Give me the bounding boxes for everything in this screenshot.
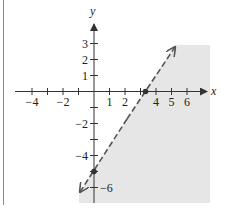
y-intercept-point (91, 169, 97, 175)
y-tick-label-3: 3 (82, 37, 88, 51)
y-tick-label-neg4: −4 (75, 149, 88, 163)
x-tick-label-neg2: −2 (57, 95, 70, 109)
y-tick-label-2: 2 (82, 53, 88, 67)
x-tick-label-5: 5 (169, 95, 175, 109)
y-axis-label: y (89, 4, 96, 18)
inequality-graph: −4 −2 1 2 4 5 6 3 2 1 −2 −4 −6 x y (0, 0, 227, 212)
x-tick-label-6: 6 (184, 95, 190, 109)
y-tick-label-1: 1 (82, 69, 88, 83)
x-tick-label-1: 1 (107, 95, 113, 109)
x-tick-label-neg4: −4 (26, 95, 39, 109)
x-axis-label: x (210, 84, 217, 98)
x-intercept-point (143, 89, 149, 95)
x-tick-label-4: 4 (153, 95, 159, 109)
y-tick-label-neg2: −2 (75, 117, 88, 131)
x-tick-label-2: 2 (122, 95, 128, 109)
shaded-solution-region (79, 45, 210, 203)
y-tick-label-neg6: −6 (100, 181, 113, 195)
